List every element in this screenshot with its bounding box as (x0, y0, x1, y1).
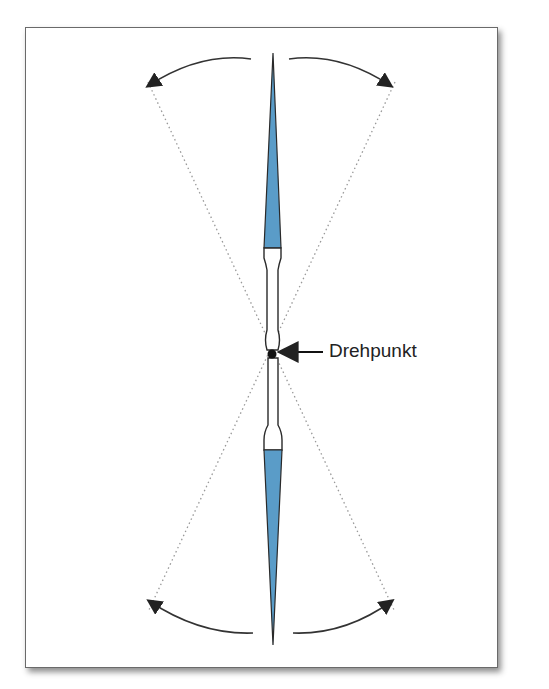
pivot-point (268, 350, 277, 359)
needle-bottom-blade (264, 450, 282, 645)
needle-upper-shaft (264, 248, 281, 350)
pendulum-diagram (0, 0, 549, 689)
pivot-label: Drehpunkt (329, 340, 417, 362)
needle-top-blade (264, 53, 281, 248)
needle-lower-shaft (264, 358, 282, 450)
